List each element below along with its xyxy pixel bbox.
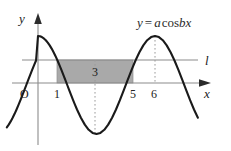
x-tick-label-5: 5: [130, 88, 136, 100]
y-axis-arrow-icon: [34, 13, 42, 24]
origin-label: O: [20, 88, 29, 100]
equation-variable: x: [185, 15, 191, 30]
equation-function: cos: [162, 15, 179, 30]
x-tick-label-1: 1: [54, 88, 60, 100]
cosine-curve-figure: y x O 1 5 6 l 3 y=acosbx: [0, 0, 231, 151]
x-axis-label: x: [204, 87, 210, 100]
x-tick-label-6: 6: [151, 88, 157, 100]
equation-amplitude: a: [154, 15, 161, 30]
equation-equals: =: [145, 15, 152, 30]
shaded-region-value-label: 3: [92, 66, 98, 78]
equation-lhs: y: [137, 15, 143, 30]
figure-canvas: [0, 0, 231, 151]
y-axis-label: y: [19, 12, 25, 25]
cosine-curve: [7, 36, 198, 134]
curve-equation-label: y=acosbx: [137, 16, 191, 29]
line-l-label: l: [205, 54, 209, 67]
